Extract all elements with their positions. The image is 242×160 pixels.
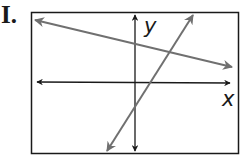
coordinate-graph: y x <box>0 0 242 160</box>
x-axis <box>37 82 230 83</box>
x-axis-label: x <box>221 87 235 111</box>
shallow-decreasing-line <box>35 20 232 67</box>
y-axis-label: y <box>143 14 157 38</box>
